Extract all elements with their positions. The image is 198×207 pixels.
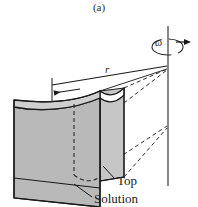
figure-container: (a) ω xyxy=(0,0,198,207)
omega-label: ω xyxy=(155,37,162,48)
top-label: Top xyxy=(117,173,137,188)
radius-label: r xyxy=(105,63,110,75)
solution-label: Solution xyxy=(94,191,139,206)
figure-drawing: ω r xyxy=(0,0,198,207)
solution-solid xyxy=(14,88,124,207)
